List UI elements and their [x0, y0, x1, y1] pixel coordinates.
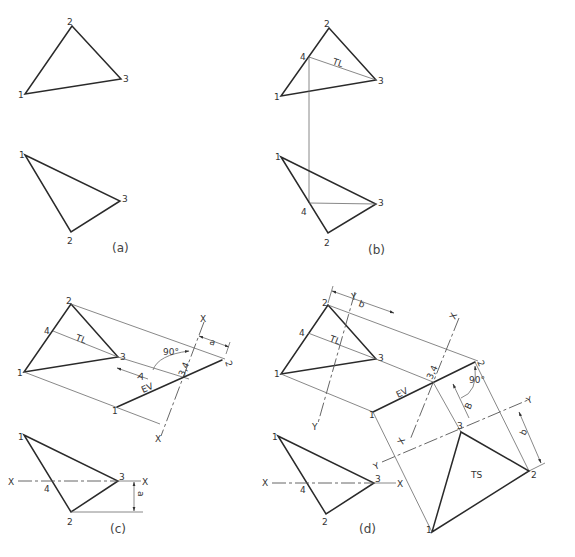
aux-point-label-1: 1: [112, 406, 118, 416]
panel-caption: (d): [359, 522, 376, 536]
dimension-label-a: a: [136, 491, 146, 497]
extension-line: [226, 342, 230, 354]
triangle-top-view: [25, 26, 121, 94]
panel-b-front-view: 1 3 2 4: [275, 152, 384, 248]
point-label-1: 1: [18, 90, 24, 100]
projection-line-1: [281, 374, 373, 412]
point-label-4: 4: [299, 328, 305, 338]
fold-label-x-bottom: X: [396, 436, 408, 445]
point-label-3: 3: [119, 472, 125, 482]
point-label-2: 2: [322, 517, 328, 527]
projection-line-1-ts: [373, 412, 432, 532]
point-label-1: 1: [274, 92, 280, 102]
panel-d: TL 2 3 1 4 Y Y b X X EV 1 2 3,4 90° B: [262, 286, 545, 536]
arrow-label-a: A: [136, 370, 146, 382]
point-label-1: 1: [18, 432, 24, 442]
point-label-1: 1: [272, 432, 278, 442]
fold-label-x-right: X: [397, 479, 403, 489]
panel-d-top-view: TL 2 3 1 4: [274, 298, 384, 379]
descriptive-geometry-figure: 2 3 1 1 3 2 (a) TL 2 3 1 4 1 3 2: [0, 0, 575, 557]
edge-view-label: EV: [140, 381, 156, 395]
triangle-top-view: [281, 305, 376, 374]
fold-label-x-right: X: [142, 477, 148, 487]
ts-point-label-2: 2: [531, 470, 537, 480]
panel-a-front-view: 1 3 2: [19, 150, 128, 246]
ts-point-label-1: 1: [426, 525, 432, 535]
point-label-1: 1: [274, 369, 280, 379]
point-label-1: 1: [275, 152, 281, 162]
view-direction-arrow: [453, 384, 469, 418]
projection-line-3: [376, 359, 433, 382]
point-label-4: 4: [301, 207, 307, 217]
fold-line-x: [161, 322, 204, 436]
triangle-front-view: [278, 436, 374, 514]
panel-caption: (c): [110, 522, 126, 536]
true-shape-label: TS: [470, 470, 482, 480]
projection-line-2: [71, 304, 225, 359]
point-label-4: 4: [300, 485, 306, 495]
triangle-top-view: [281, 28, 376, 96]
edge-view-line: [117, 360, 222, 407]
panel-caption: (b): [368, 243, 385, 257]
fold-label-x-top: X: [448, 311, 460, 320]
panel-c: TL 2 3 1 4 X X EV 1 2 3,4 A 90° a: [8, 296, 234, 536]
point-label-2: 2: [324, 238, 330, 248]
point-label-3: 3: [375, 474, 381, 484]
triangle-front-view: [281, 157, 376, 233]
panel-caption: (a): [112, 241, 129, 255]
point-label-3: 3: [378, 76, 384, 86]
triangle-front-view: [24, 435, 118, 512]
point-label-1: 1: [19, 150, 25, 160]
aux-point-label-3-4: 3,4: [425, 363, 440, 380]
dimension-label-b: b: [518, 427, 530, 437]
point-label-4: 4: [44, 326, 50, 336]
projection-line-2: [328, 305, 478, 361]
ts-point-label-3: 3: [457, 421, 463, 431]
point-label-4: 4: [300, 52, 306, 62]
fold-label-y-left: Y: [371, 460, 381, 472]
panel-b-top-view: TL 2 3 1 4: [274, 19, 384, 102]
angle-label: 90°: [163, 347, 179, 357]
fold-label-x-left: X: [262, 478, 268, 488]
point-label-2: 2: [66, 296, 72, 306]
extension-line: [328, 286, 333, 303]
fold-label-y-right: Y: [524, 394, 534, 406]
dimension-b-ts: [519, 412, 541, 463]
point-label-2: 2: [67, 517, 73, 527]
panel-b: TL 2 3 1 4 1 3 2 4 (b): [274, 19, 385, 257]
point-label-3: 3: [122, 194, 128, 204]
point-label-2: 2: [67, 17, 73, 27]
panel-a-top-view: 2 3 1: [18, 17, 129, 100]
panel-a: 2 3 1 1 3 2 (a): [18, 17, 129, 255]
aux-point-label-2: 2: [223, 359, 234, 368]
point-label-1: 1: [17, 368, 23, 378]
point-label-4: 4: [44, 484, 50, 494]
point-label-3: 3: [120, 352, 126, 362]
panel-c-front-view: a 1 3 2 4 X X: [8, 432, 148, 527]
point-label-2: 2: [322, 298, 328, 308]
point-label-2: 2: [324, 19, 330, 29]
true-length-label: TL: [330, 56, 344, 69]
fold-label-y-bottom: Y: [311, 422, 318, 432]
panel-d-front-view: 1 3 2 4 X X: [262, 432, 403, 527]
point-label-2: 2: [67, 236, 73, 246]
fold-label-x-bottom: X: [155, 434, 161, 444]
true-length-label: TL: [327, 333, 341, 346]
fold-label-x-left: X: [8, 477, 14, 487]
horizontal-line: [309, 203, 376, 204]
aux-point-label-1: 1: [369, 410, 375, 420]
triangle-front-view: [25, 155, 120, 232]
point-label-3: 3: [123, 74, 129, 84]
edge-view-label: EV: [394, 385, 410, 400]
fold-label-y-top: Y: [350, 292, 357, 302]
point-label-3: 3: [378, 198, 384, 208]
panel-c-top-view: TL 2 3 1 4: [17, 296, 126, 378]
fold-label-x-top: X: [200, 314, 206, 324]
true-shape-triangle: [432, 432, 529, 532]
